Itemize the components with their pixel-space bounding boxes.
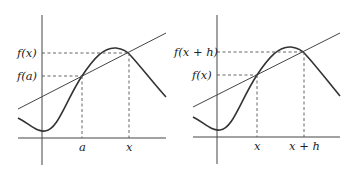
y-label-second: f(x + h): [173, 45, 218, 59]
y-label-first: f(x): [191, 68, 212, 82]
y-label-first: f(a): [16, 69, 37, 83]
x-label-second: x + h: [289, 139, 320, 153]
panel-left: f(x) f(a) a x: [16, 15, 166, 165]
y-label-second: f(x): [16, 46, 37, 60]
function-curve: [18, 48, 166, 131]
x-label-first: x: [254, 139, 261, 153]
x-label-second: x: [126, 140, 133, 154]
x-label-first: a: [79, 140, 86, 154]
function-curve: [193, 47, 340, 130]
secant-diagrams: f(x) f(a) a x f(x + h) f(x) x x + h: [0, 0, 355, 174]
panel-right: f(x + h) f(x) x x + h: [173, 15, 340, 164]
